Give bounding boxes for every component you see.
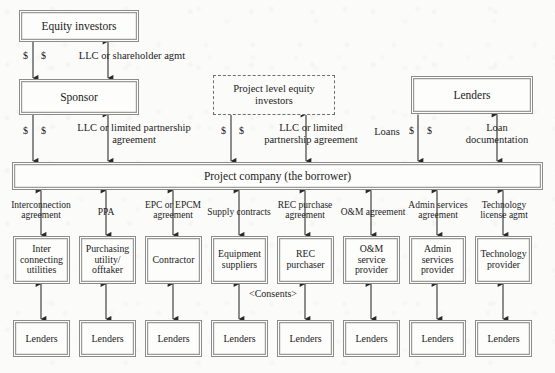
edge-label-loans-money-2: $ [427, 126, 432, 136]
node-lenders-top[interactable]: Lenders [411, 76, 533, 114]
edge-label-ple-llc-agreement: LLC or limited partnership agreement [252, 122, 370, 145]
contract-label-0: Interconnection agreement [3, 200, 79, 221]
node-counterparty-2[interactable]: Contractor [145, 236, 202, 284]
node-counterparty-0[interactable]: Inter connecting utilities [13, 236, 70, 284]
node-sponsor[interactable]: Sponsor [19, 79, 139, 115]
node-equity-investors[interactable]: Equity investors [19, 10, 139, 42]
edge-label-sponsor-money-1: $ [23, 126, 28, 136]
node-counterparty-4-label: REC purchaser [278, 249, 333, 271]
consents-label: <Consents> [244, 288, 302, 299]
node-bottom-lenders-5[interactable]: Lenders [343, 320, 400, 357]
edge-label-ple-money-1: $ [221, 126, 226, 136]
node-lenders-top-label: Lenders [451, 89, 492, 102]
node-sponsor-label: Sponsor [58, 91, 100, 104]
node-counterparty-4[interactable]: REC purchaser [277, 236, 334, 284]
node-counterparty-5[interactable]: O&M service provider [343, 236, 400, 284]
node-counterparty-5-label: O&M service provider [344, 244, 399, 277]
node-counterparty-0-label: Inter connecting utilities [14, 244, 69, 277]
node-bottom-lenders-1[interactable]: Lenders [79, 320, 136, 357]
contract-label-1: PPA [84, 207, 128, 217]
node-bottom-lenders-1-label: Lenders [89, 333, 125, 344]
edge-label-loans-money-1: $ [409, 126, 414, 136]
node-bottom-lenders-0-label: Lenders [23, 333, 59, 344]
edge-label-equity-money-1: $ [23, 51, 28, 61]
node-bottom-lenders-6-label: Lenders [419, 333, 455, 344]
node-project-level-equity-investors-label: Project level equity investors [214, 83, 334, 107]
node-project-company[interactable]: Project company (the borrower) [12, 162, 543, 190]
node-counterparty-6-label: Admin services provider [410, 244, 465, 277]
node-project-company-label: Project company (the borrower) [202, 170, 353, 183]
node-counterparty-3-label: Equipment suppliers [212, 249, 267, 271]
contract-label-4: REC purchase agreement [268, 200, 342, 221]
node-bottom-lenders-2[interactable]: Lenders [145, 320, 202, 357]
project-finance-diagram: Equity investors Sponsor Project level e… [0, 0, 555, 373]
node-bottom-lenders-3[interactable]: Lenders [211, 320, 268, 357]
edge-label-loans: Loans [367, 126, 407, 138]
node-bottom-lenders-0[interactable]: Lenders [13, 320, 70, 357]
contract-label-6: Admin services agreement [400, 200, 476, 221]
node-project-level-equity-investors[interactable]: Project level equity investors [213, 75, 335, 115]
node-counterparty-3[interactable]: Equipment suppliers [211, 236, 268, 284]
node-bottom-lenders-6[interactable]: Lenders [409, 320, 466, 357]
node-equity-investors-label: Equity investors [39, 20, 118, 33]
node-bottom-lenders-3-label: Lenders [221, 333, 257, 344]
node-bottom-lenders-2-label: Lenders [155, 333, 191, 344]
edge-label-equity-money-2: $ [41, 51, 46, 61]
node-bottom-lenders-5-label: Lenders [353, 333, 389, 344]
edge-label-sponsor-money-2: $ [41, 126, 46, 136]
node-bottom-lenders-7-label: Lenders [485, 333, 521, 344]
edge-label-llc-or-shareholder-agmt: LLC or shareholder agmt [57, 50, 207, 62]
node-counterparty-2-label: Contractor [151, 255, 197, 266]
node-counterparty-6[interactable]: Admin services provider [409, 236, 466, 284]
node-bottom-lenders-7[interactable]: Lenders [475, 320, 532, 357]
edge-label-loan-documentation: Loan documentation [452, 122, 542, 145]
node-bottom-lenders-4[interactable]: Lenders [277, 320, 334, 357]
node-bottom-lenders-4-label: Lenders [287, 333, 323, 344]
node-counterparty-1[interactable]: Purchasing utility/ offtaker [79, 236, 136, 284]
edge-label-ple-money-2: $ [239, 126, 244, 136]
node-counterparty-7-label: Technology provider [476, 249, 531, 271]
edge-label-llc-or-limited-partnership-agreement: LLC or limited partnership agreement [54, 122, 214, 145]
contract-label-7: Technology license agmt [467, 200, 541, 221]
node-counterparty-1-label: Purchasing utility/ offtaker [80, 244, 135, 277]
node-counterparty-7[interactable]: Technology provider [475, 236, 532, 284]
